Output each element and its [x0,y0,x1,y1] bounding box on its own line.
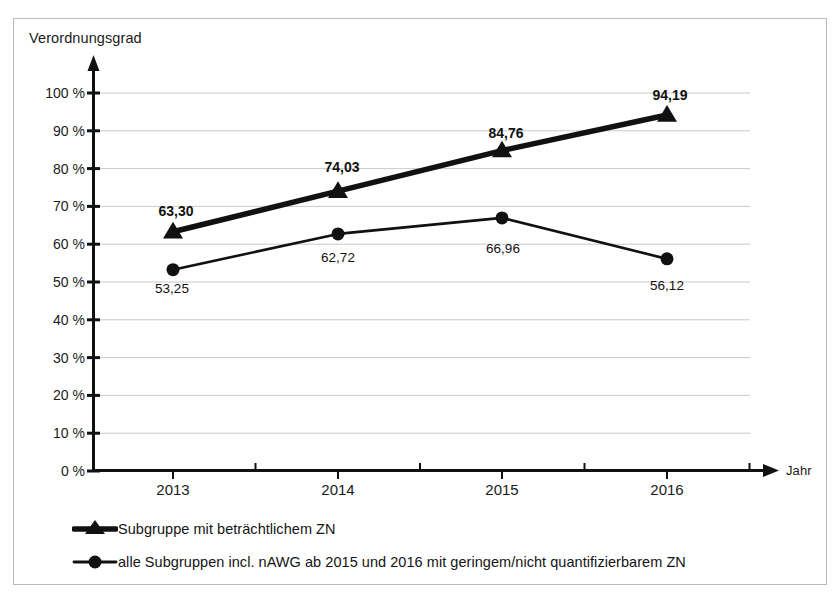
x-axis-tick-label: 2015 [485,481,518,498]
legend-item-label: Subgruppe mit beträchtlichem ZN [118,521,336,537]
x-axis-line [93,464,779,477]
legend-item-2[interactable]: alle Subgruppen incl. nAWG ab 2015 und 2… [72,545,792,578]
chart-legend: Subgruppe mit beträchtlichem ZNalle Subg… [72,512,792,578]
plot-area [0,0,839,598]
y-axis-tick-label: 20 % [23,387,85,403]
y-axis-tick-label: 70 % [23,198,85,214]
data-point-label: 94,19 [652,87,687,103]
y-axis-tick-label: 50 % [23,274,85,290]
y-axis-tick-label: 0 % [23,463,85,479]
data-point-marker [657,105,677,122]
data-point-marker [496,211,509,224]
legend-item-label: alle Subgruppen incl. nAWG ab 2015 und 2… [118,554,686,570]
data-point-label: 62,72 [321,250,355,265]
gridlines [93,93,750,433]
data-point-marker [167,263,180,276]
data-point-label: 74,03 [324,159,359,175]
x-axis-tick-label: 2014 [321,481,354,498]
data-point-label: 84,76 [488,125,523,141]
legend-item-1[interactable]: Subgruppe mit beträchtlichem ZN [72,512,792,545]
data-point-marker [332,227,345,240]
y-axis-tick-label: 100 % [23,85,85,101]
data-point-label: 53,25 [155,281,189,296]
y-axis-tick-label: 10 % [23,425,85,441]
y-axis-tick-label: 90 % [23,123,85,139]
y-axis-tick-label: 40 % [23,312,85,328]
chart-root: Verordnungsgrad Jahr 0 %10 %20 %30 %40 %… [0,0,839,598]
data-point-label: 56,12 [650,278,684,293]
y-axis-line [88,55,100,471]
x-axis-tick-label: 2016 [650,481,683,498]
y-axis-tick-labels: 0 %10 %20 %30 %40 %50 %60 %70 %80 %90 %1… [23,0,85,598]
data-point-label: 63,30 [158,203,193,219]
triangle-marker-icon [72,519,118,539]
y-axis-tick-label: 30 % [23,350,85,366]
series-line-1 [173,115,667,232]
y-axis-tick-label: 60 % [23,236,85,252]
data-point-label: 66,96 [486,241,520,256]
data-point-marker [661,252,674,265]
circle-marker-icon [72,552,118,572]
x-axis-tick-label: 2013 [156,481,189,498]
y-axis-tick-label: 80 % [23,161,85,177]
